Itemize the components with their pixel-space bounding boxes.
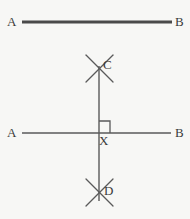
right-angle-marker: [99, 121, 110, 133]
label-b-top: B: [175, 15, 184, 28]
label-x: X: [99, 134, 108, 147]
figure-canvas: [0, 0, 190, 219]
label-c: C: [103, 58, 112, 71]
label-d: D: [104, 184, 113, 197]
label-b-bottom: B: [175, 126, 184, 139]
label-a-bottom: A: [7, 126, 16, 139]
geometry-figure: A B C A B X D: [0, 0, 190, 219]
label-a-top: A: [7, 15, 16, 28]
